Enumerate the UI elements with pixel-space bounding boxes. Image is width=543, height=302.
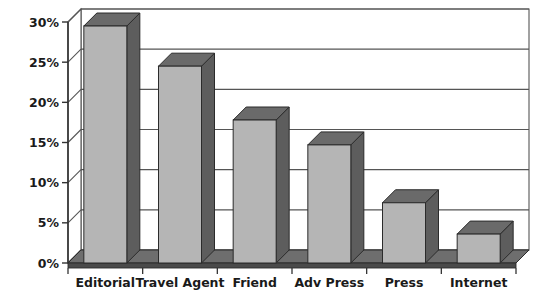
bar-travel-agent[interactable] bbox=[159, 53, 215, 263]
bar-friend[interactable] bbox=[233, 107, 289, 263]
bar-chart-3d: EditorialTravel AgentFriendAdv PressPres… bbox=[0, 0, 543, 302]
category-label-2: Friend bbox=[232, 275, 277, 290]
y-axis-label-2: 10% bbox=[29, 175, 59, 190]
bar-front-face bbox=[84, 26, 127, 263]
bar-front-face bbox=[457, 234, 500, 263]
bar-side-face bbox=[351, 132, 364, 263]
category-label-0: Editorial bbox=[76, 275, 136, 290]
y-axis-label-0: 0% bbox=[38, 256, 60, 271]
bar-side-face bbox=[127, 13, 140, 263]
bar-front-face bbox=[159, 66, 202, 263]
bar-front-face bbox=[308, 145, 351, 263]
bar-side-face bbox=[202, 53, 215, 263]
bar-press[interactable] bbox=[383, 190, 439, 263]
category-label-3: Adv Press bbox=[294, 275, 364, 290]
bar-side-face bbox=[276, 107, 289, 263]
chart-canvas: EditorialTravel AgentFriendAdv PressPres… bbox=[0, 0, 543, 302]
y-axis-label-6: 30% bbox=[29, 15, 59, 30]
bar-front-face bbox=[233, 120, 276, 263]
bar-front-face bbox=[383, 203, 426, 263]
y-axis-labels: 0%5%10%15%20%25%30% bbox=[29, 15, 59, 271]
category-label-4: Press bbox=[385, 275, 424, 290]
category-label-5: Internet bbox=[450, 275, 508, 290]
category-label-1: Travel Agent bbox=[136, 275, 225, 290]
y-axis-label-5: 25% bbox=[29, 55, 59, 70]
chart-floor-front bbox=[68, 263, 516, 268]
y-axis-label-1: 5% bbox=[38, 215, 60, 230]
y-axis-label-3: 15% bbox=[29, 135, 59, 150]
category-labels: EditorialTravel AgentFriendAdv PressPres… bbox=[76, 275, 508, 290]
y-axis-label-4: 20% bbox=[29, 95, 59, 110]
bar-internet[interactable] bbox=[457, 221, 513, 263]
bar-adv-press[interactable] bbox=[308, 132, 364, 263]
bar-editorial[interactable] bbox=[84, 13, 140, 263]
